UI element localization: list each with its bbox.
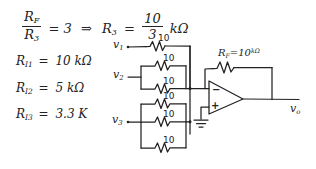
terminal-dot-v1 xyxy=(127,46,130,49)
opamp-noninverting-sign: + xyxy=(211,101,219,111)
opamp-inverting-sign: − xyxy=(212,85,220,95)
junction-dot-summing xyxy=(189,87,192,90)
terminal-dot-v3 xyxy=(127,121,130,124)
resistor-label-r3c: 10 xyxy=(163,136,174,145)
resistor-label-r2b: 10 xyxy=(163,77,174,86)
resistor-rf-zigzag xyxy=(213,62,234,73)
output-wire xyxy=(243,99,299,100)
junction-dot-v3 xyxy=(189,120,192,123)
input-label-v3: v3 xyxy=(112,114,123,127)
feedback-resistor-label: RF=10kΩ xyxy=(218,48,260,59)
resistor-label-r3a: 10 xyxy=(163,92,174,101)
opamp-noninverting-input-wire xyxy=(201,107,209,119)
input-label-v1: v1 xyxy=(113,39,124,52)
handwritten-note-sheet: RF R3 = 3 ⇒ R3 = 10 3 kΩ RI1 = 10 kΩ RI2… xyxy=(0,0,316,169)
input-label-v2: v2 xyxy=(113,69,124,82)
resistor-label-r3b: 10 xyxy=(163,110,174,119)
circuit-drawing xyxy=(0,0,316,169)
output-label-vo: vo xyxy=(290,103,300,116)
resistor-label-r2a: 10 xyxy=(163,54,174,63)
resistor-label-r1: 10 xyxy=(158,34,169,43)
